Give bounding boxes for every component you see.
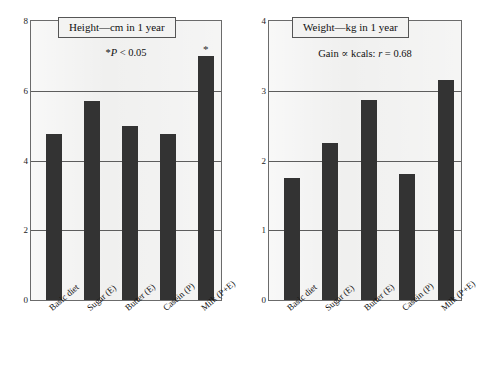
bar-milk-p-e: [198, 56, 214, 300]
panel-subtitle-weight: Gain ∝ kcals: r = 0.68: [268, 47, 462, 59]
y-tick-label-8: 8: [16, 16, 32, 26]
y-tick-label-2: 2: [16, 225, 32, 235]
panel-title-height: Height—cm in 1 year: [58, 17, 176, 38]
y-tick-label-2: 2: [254, 156, 270, 166]
bar-milk-p-e: [438, 80, 454, 300]
subtitle-rest: < 0.05: [117, 47, 147, 58]
panel-title-weight: Weight—kg in 1 year: [292, 17, 409, 38]
two-panel-bar-chart-figure: * 02468 Height—cm in 1 year *P < 0.05 Ba…: [0, 0, 478, 372]
bar-basic-diet: [46, 134, 62, 300]
bar-basic-diet: [284, 178, 300, 300]
bar-casein-p: [399, 174, 415, 300]
bar-casein-p: [160, 134, 176, 300]
bar-sugar-e: [84, 101, 100, 300]
bar-butter-e: [361, 100, 377, 300]
panel-subtitle-height: *P < 0.05: [30, 47, 222, 58]
y-tick-label-4: 4: [254, 16, 270, 26]
subtitle-rest: = 0.68: [382, 48, 412, 59]
bar-sugar-e: [322, 143, 338, 300]
y-tick-label-4: 4: [16, 156, 32, 166]
y-tick-label-6: 6: [16, 86, 32, 96]
subtitle-prefix: Gain ∝ kcals:: [318, 48, 378, 59]
x-axis-labels-height: Basic dietSugar (E)Butter (E)Casein (P)M…: [0, 303, 239, 372]
chart-panel-height: * 02468 Height—cm in 1 year *P < 0.05 Ba…: [0, 0, 239, 372]
x-axis-labels-weight: Basic dietSugar (E)Butter (E)Casein (P)M…: [239, 303, 478, 372]
chart-panel-weight: 01234 Weight—kg in 1 year Gain ∝ kcals: …: [239, 0, 478, 372]
bar-butter-e: [122, 126, 138, 300]
plot-area-weight: [268, 20, 462, 301]
y-tick-label-1: 1: [254, 225, 270, 235]
bars-weight: [269, 21, 461, 300]
plot-area-height: *: [30, 20, 222, 301]
bars-height: *: [31, 21, 221, 300]
y-tick-label-3: 3: [254, 86, 270, 96]
